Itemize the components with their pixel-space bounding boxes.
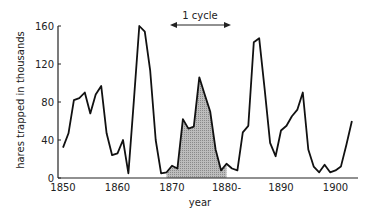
x-tick-label: 1850	[50, 182, 75, 193]
y-tick-label: 80	[41, 97, 54, 108]
y-tick-label: 160	[35, 21, 54, 32]
x-tick-label: 1900	[323, 182, 348, 193]
x-tick-label: 1870	[159, 182, 184, 193]
y-tick-label: 120	[35, 59, 54, 70]
arrow-left-icon	[170, 22, 177, 28]
y-axis-title: hares trapped in thousands	[15, 31, 26, 169]
cycle-label: 1 cycle	[182, 10, 217, 21]
shaded-cycle-area	[167, 77, 227, 178]
cycle-annotation: 1 cycle	[170, 10, 231, 28]
y-axis: 04080120160	[35, 21, 61, 184]
arrow-right-icon	[224, 22, 231, 28]
x-tick-label: 1860	[105, 182, 130, 193]
x-axis: 1850186018701880-18901900	[50, 178, 358, 193]
x-axis-title: year	[189, 197, 212, 208]
y-tick-label: 40	[41, 135, 54, 146]
x-tick-label: 1890	[268, 182, 293, 193]
hare-population-chart: 04080120160 1850186018701880-18901900 ha…	[0, 0, 375, 214]
x-tick-label: 1880-	[212, 182, 241, 193]
